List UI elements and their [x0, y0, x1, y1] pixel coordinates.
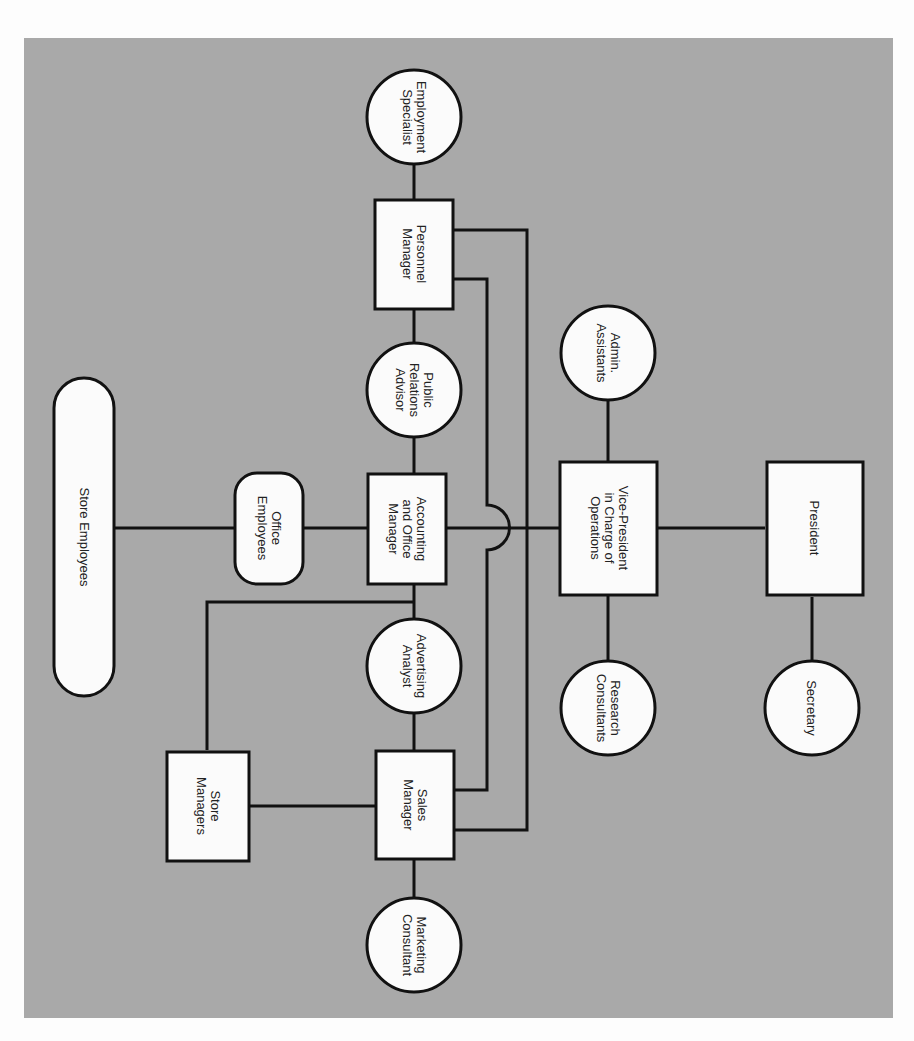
node-office[interactable]	[235, 473, 303, 584]
org-chart-lines	[0, 0, 914, 1041]
node-secretary[interactable]	[765, 661, 859, 755]
node-president[interactable]	[767, 462, 863, 595]
node-sales[interactable]	[376, 751, 454, 859]
node-personnel[interactable]	[375, 200, 453, 309]
node-accounting[interactable]	[368, 474, 446, 584]
node-pr[interactable]	[367, 343, 461, 437]
node-research[interactable]	[561, 661, 655, 755]
node-marketing[interactable]	[367, 898, 461, 992]
node-advertising[interactable]	[367, 619, 461, 713]
node-store-employees[interactable]	[54, 378, 114, 696]
node-employment[interactable]	[367, 70, 461, 164]
node-vp[interactable]	[560, 462, 657, 595]
node-admin[interactable]	[561, 306, 655, 400]
node-store-managers[interactable]	[167, 752, 249, 861]
